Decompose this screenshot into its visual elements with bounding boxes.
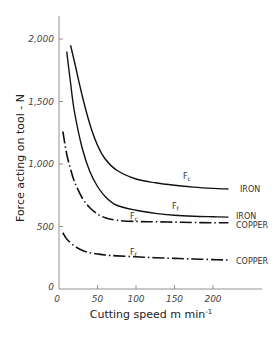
x-tick-label: 100 [127,294,144,304]
y-tick-label: 2,000 [28,34,54,44]
label-copper-1: COPPER [236,221,269,230]
curve-fc-copper [63,132,229,223]
curve-fc-iron [71,45,229,189]
y-tick-label: 500 [37,222,54,232]
x-tick-label: 50 [92,294,104,304]
label-iron-2: IRON [236,212,256,221]
label-fc-iron: Fc [183,172,191,182]
curve-ff-copper [63,233,229,260]
label-copper-2: COPPER [236,257,269,266]
label-fc-copper: Fc [130,212,138,222]
x-tick-label: 0 [54,294,60,304]
y-tick-label: 0 [48,282,54,292]
x-tick-label: 150 [166,294,183,304]
x-tick-label: 200 [204,294,221,304]
curve-ff-iron [67,52,229,218]
label-iron-1: IRON [240,185,260,194]
chart: 05001,0001,5002,000 050100150200 Force a… [0,0,279,338]
y-tick-label: 1,000 [28,159,54,169]
y-ticks: 05001,0001,5002,000 [28,34,63,292]
y-axis-title: Force acting on tool - N [14,94,27,222]
x-ticks: 050100150200 [54,285,222,304]
label-ff-copper: Ff [130,248,138,258]
force-vs-speed-plot: 05001,0001,5002,000 050100150200 Force a… [0,0,279,338]
label-ff-iron: Ff [172,202,180,212]
curves [63,45,229,260]
x-axis-title: Cutting speed m min-1 [90,308,212,321]
y-tick-label: 1,500 [28,97,54,107]
